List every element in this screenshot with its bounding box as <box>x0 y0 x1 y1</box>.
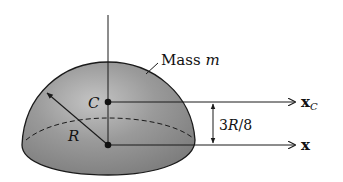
center-label: C <box>88 94 100 112</box>
offset-label: 3R/8 <box>219 117 252 133</box>
mass-label: Mass m <box>161 51 220 69</box>
hemisphere-diagram: Mass m C R 3R/8 xC x <box>0 0 343 182</box>
radius-label: R <box>67 127 79 145</box>
center-of-mass-point <box>105 99 112 106</box>
axis-x-label: x <box>301 136 311 154</box>
base-center-point <box>105 142 112 149</box>
axis-xc-label: xC <box>301 93 318 112</box>
